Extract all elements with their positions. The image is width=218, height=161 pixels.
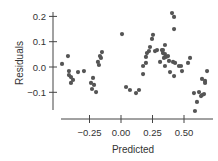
x-tick-label: −0.25 <box>77 127 101 138</box>
data-point <box>144 55 148 59</box>
x-tick-label: 0.25 <box>143 127 162 138</box>
data-point <box>202 92 206 96</box>
data-point <box>180 69 184 73</box>
data-point <box>193 109 197 113</box>
data-point <box>173 61 177 65</box>
data-point <box>150 37 154 41</box>
data-point <box>120 32 124 36</box>
data-point <box>91 76 95 80</box>
data-point <box>66 54 70 58</box>
data-point <box>141 72 145 76</box>
y-tick-label: 0.0 <box>33 62 46 73</box>
data-point <box>144 61 148 65</box>
x-axis: −0.250.000.250.50 <box>61 115 213 138</box>
y-axis: 0.20.10.0−0.1 <box>27 11 57 110</box>
x-axis-title: Predicted <box>112 144 154 155</box>
data-point <box>92 83 96 87</box>
data-points <box>60 11 209 113</box>
data-point <box>161 48 165 52</box>
data-point <box>90 87 94 91</box>
data-point <box>69 81 73 85</box>
data-point <box>195 100 199 104</box>
data-point <box>172 74 176 78</box>
data-point <box>151 33 155 37</box>
data-point <box>203 79 207 83</box>
data-point <box>192 91 196 95</box>
data-point <box>197 90 201 94</box>
data-point <box>163 64 167 68</box>
data-point <box>167 59 171 63</box>
data-point <box>99 56 103 60</box>
data-point <box>67 69 71 73</box>
x-tick-label: 0.50 <box>175 127 194 138</box>
data-point <box>155 48 159 52</box>
data-point <box>163 43 167 47</box>
data-point <box>172 27 176 31</box>
data-point <box>188 56 192 60</box>
data-point <box>97 63 101 67</box>
data-point <box>148 45 152 49</box>
y-tick-label: −0.1 <box>27 87 46 98</box>
data-point <box>186 61 190 65</box>
data-point <box>205 69 209 73</box>
data-point <box>158 60 162 64</box>
data-point <box>128 88 132 92</box>
y-axis-title: Residuals <box>14 41 25 85</box>
data-point <box>179 64 183 68</box>
data-point <box>124 85 128 89</box>
data-point <box>76 70 80 74</box>
data-point <box>141 64 145 68</box>
data-point <box>137 88 141 92</box>
x-tick-label: 0.00 <box>112 127 131 138</box>
x-axis-ticks: −0.250.000.250.50 <box>77 115 193 138</box>
y-tick-label: 0.2 <box>33 11 46 22</box>
data-point <box>166 54 170 58</box>
data-point <box>100 50 104 54</box>
data-point <box>168 70 172 74</box>
data-point <box>172 15 176 19</box>
data-point <box>134 91 138 95</box>
data-point <box>94 90 98 94</box>
data-point <box>147 49 151 53</box>
data-point <box>60 62 64 66</box>
residual-scatter-plot: 0.20.10.0−0.1 −0.250.000.250.50 Residual… <box>0 0 218 161</box>
y-tick-label: 0.1 <box>33 36 46 47</box>
data-point <box>170 11 174 15</box>
data-point <box>82 69 86 73</box>
